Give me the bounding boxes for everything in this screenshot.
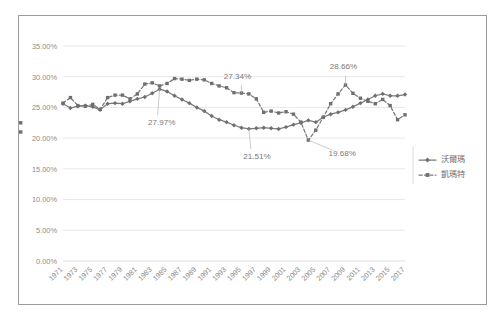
data-point-marker xyxy=(239,126,243,130)
data-point-marker xyxy=(180,77,183,80)
series-line-1 xyxy=(63,79,405,141)
legend-swatch-marker-1 xyxy=(426,173,430,177)
data-point-marker xyxy=(203,78,206,81)
legend-label-1[interactable]: 凱瑪特 xyxy=(441,169,465,179)
data-point-marker xyxy=(188,79,191,82)
data-label: 27.34% xyxy=(224,72,251,81)
data-point-marker xyxy=(351,105,355,109)
x-axis-tick-label: 2011 xyxy=(345,265,362,282)
data-point-marker xyxy=(373,94,377,98)
x-axis-tick-label: 2005 xyxy=(300,265,318,283)
y-axis-tick-label: 15.00% xyxy=(32,165,57,174)
x-axis-tick-label: 1997 xyxy=(240,265,258,283)
data-point-marker xyxy=(269,126,273,130)
data-point-marker xyxy=(291,122,295,126)
chart-frame: 35.00%30.00%25.00%20.00%15.00%10.00%5.00… xyxy=(18,15,487,305)
data-label: 28.66% xyxy=(330,62,357,71)
y-axis-tick-label: 35.00% xyxy=(32,42,57,51)
x-axis-tick-label: 1981 xyxy=(121,265,139,283)
annotation-leader-line xyxy=(158,89,160,115)
data-point-marker xyxy=(403,92,407,96)
data-point-marker xyxy=(173,77,176,80)
line-chart: 35.00%30.00%25.00%20.00%15.00%10.00%5.00… xyxy=(19,16,486,304)
y-axis-tick-label: 30.00% xyxy=(32,73,57,82)
y-axis-tick-label: 25.00% xyxy=(32,103,57,112)
data-point-marker xyxy=(388,94,392,98)
x-axis-tick-label: 2013 xyxy=(359,265,377,283)
data-point-marker xyxy=(254,126,258,130)
data-point-marker xyxy=(217,84,220,87)
data-label: 27.97% xyxy=(148,118,175,127)
data-point-marker xyxy=(91,103,94,106)
data-point-marker xyxy=(247,92,250,95)
x-axis-tick-label: 1987 xyxy=(166,265,184,283)
data-point-marker xyxy=(136,92,139,95)
x-axis-tick-label: 1985 xyxy=(151,265,169,283)
data-point-marker xyxy=(19,130,22,133)
x-axis-tick-label: 1975 xyxy=(76,265,94,283)
data-point-marker xyxy=(128,97,131,100)
data-point-marker xyxy=(121,93,124,96)
data-point-marker xyxy=(180,97,184,101)
data-point-marker xyxy=(359,97,362,100)
x-axis-tick-label: 1973 xyxy=(62,265,80,283)
data-point-marker xyxy=(336,110,340,114)
data-point-marker xyxy=(292,112,295,115)
data-point-marker xyxy=(284,110,287,113)
legend-label-0[interactable]: 沃爾瑪 xyxy=(441,155,465,164)
data-point-marker xyxy=(269,109,272,112)
x-axis-tick-label: 2015 xyxy=(374,265,392,283)
data-point-marker xyxy=(277,111,280,114)
data-point-marker xyxy=(210,82,213,85)
data-point-marker xyxy=(98,108,101,111)
y-axis-tick-label: 5.00% xyxy=(36,226,57,235)
data-point-marker xyxy=(195,77,198,80)
data-point-marker xyxy=(343,108,347,112)
data-point-marker xyxy=(232,123,236,127)
data-point-marker xyxy=(232,91,235,94)
x-axis-tick-label: 1971 xyxy=(47,265,65,283)
x-axis-tick-label: 1983 xyxy=(136,265,154,283)
data-point-marker xyxy=(69,96,72,99)
data-point-marker xyxy=(84,105,87,108)
data-point-marker xyxy=(329,102,332,105)
data-point-marker xyxy=(61,101,64,104)
data-point-marker xyxy=(395,94,399,98)
data-point-marker xyxy=(135,97,139,101)
annotation-leader-line xyxy=(249,129,251,149)
data-point-marker xyxy=(306,118,310,122)
data-point-marker xyxy=(351,92,354,95)
data-point-marker xyxy=(225,86,228,89)
data-point-marker xyxy=(76,104,79,107)
data-point-marker xyxy=(120,102,124,106)
data-point-marker xyxy=(322,116,325,119)
x-axis-tick-label: 1977 xyxy=(91,265,109,283)
legend-swatch-marker-0 xyxy=(425,158,430,163)
data-point-marker xyxy=(388,104,391,107)
data-point-marker xyxy=(224,120,228,124)
x-axis-tick-label: 1993 xyxy=(210,265,228,283)
data-point-marker xyxy=(217,118,221,122)
chart-plot-host: 35.00%30.00%25.00%20.00%15.00%10.00%5.00… xyxy=(19,16,486,304)
data-point-marker xyxy=(255,97,258,100)
data-point-marker xyxy=(262,126,266,130)
data-point-marker xyxy=(143,82,146,85)
data-point-marker xyxy=(262,111,265,114)
x-axis-tick-label: 2003 xyxy=(285,265,303,283)
x-axis-tick-label: 2017 xyxy=(389,265,407,283)
data-point-marker xyxy=(307,138,310,141)
data-point-marker xyxy=(381,98,384,101)
data-point-marker xyxy=(113,93,116,96)
data-point-marker xyxy=(299,120,302,123)
data-point-marker xyxy=(106,96,109,99)
data-point-marker xyxy=(158,84,161,87)
data-point-marker xyxy=(336,92,339,95)
data-point-marker xyxy=(358,101,362,105)
x-axis-tick-label: 2007 xyxy=(314,265,332,283)
data-label: 21.51% xyxy=(243,152,270,161)
x-axis-tick-label: 2001 xyxy=(270,265,288,283)
x-axis-tick-label: 2009 xyxy=(329,265,347,283)
x-axis-tick-label: 1989 xyxy=(181,265,199,283)
data-point-marker xyxy=(284,125,288,129)
data-point-marker xyxy=(113,101,117,105)
